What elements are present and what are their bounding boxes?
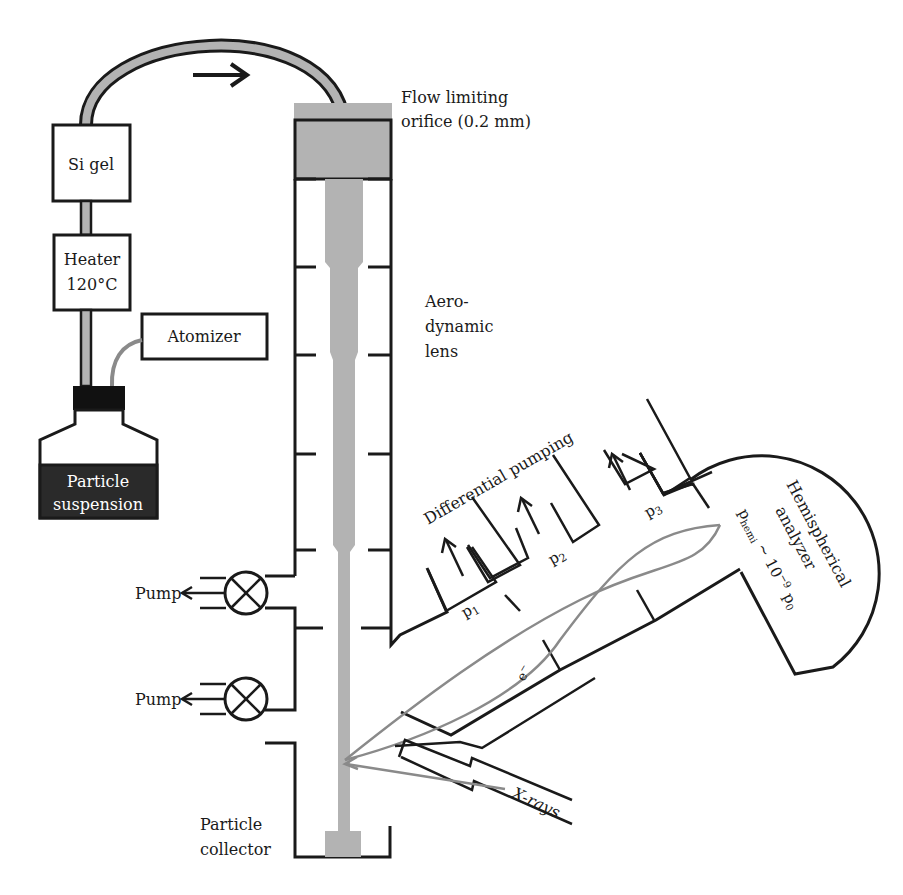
flow-orifice-label-2: orifice (0.2 mm) (401, 112, 531, 131)
differential-pumping-arrows (442, 454, 630, 576)
apparatus-diagram: Si gel Heater 120°C Atomizer Particle su… (0, 0, 903, 895)
heater-bottle-connector (81, 310, 91, 386)
pump-label-2: Pump (135, 690, 181, 709)
pump-2: Pump (135, 678, 267, 720)
lens-label-3: lens (425, 342, 458, 361)
stage-p3-label: p3 (641, 498, 665, 524)
si-gel-box: Si gel (53, 125, 130, 201)
heater-label: Heater (64, 250, 121, 269)
si-gel-label: Si gel (68, 155, 114, 174)
lens-label-1: Aero- (424, 292, 469, 311)
flow-orifice-plate (294, 103, 392, 120)
stage-p2-label: p2 (545, 545, 569, 571)
flow-direction-arrow-icon (193, 64, 247, 86)
suspension-bottle: Particle suspension (40, 386, 157, 518)
atomizer-box: Atomizer (142, 314, 267, 359)
collector-label-2: collector (200, 840, 271, 859)
particle-suspension-label-2: suspension (53, 495, 143, 514)
xrays-label: X-rays (507, 783, 563, 822)
bottle-cap (73, 386, 125, 410)
particle-suspension-label-1: Particle (67, 472, 129, 491)
orifice-chamber (295, 120, 391, 179)
gel-heater-connector (81, 201, 91, 235)
atomizer-label: Atomizer (166, 327, 241, 346)
heater-box: Heater 120°C (54, 235, 130, 310)
differential-pumping-label: Differential pumping (421, 427, 577, 528)
aerodynamic-lens-column (265, 103, 392, 857)
lens-label-2: dynamic (425, 317, 493, 336)
particle-collector (325, 831, 361, 857)
flow-orifice-label-1: Flow limiting (401, 88, 508, 107)
atomizer-line (112, 340, 142, 386)
pump-1: Pump (135, 572, 267, 614)
heater-temperature: 120°C (67, 275, 118, 294)
collector-label-1: Particle (200, 815, 262, 834)
pump-label-1: Pump (135, 584, 181, 603)
electron-trajectories (345, 525, 720, 760)
